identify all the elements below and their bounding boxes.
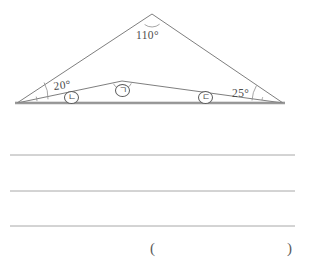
apex-angle-label: 110° — [136, 30, 159, 42]
answer-bracket-close: ) — [287, 241, 292, 256]
marked-angle-giyeok: ㄱ — [115, 84, 130, 97]
marked-angle-nieun: ㄴ — [64, 91, 79, 104]
outer-triangle-right-side — [152, 14, 283, 103]
apex-angle-arc — [145, 24, 160, 27]
outer-triangle-left-side — [17, 14, 152, 103]
right-base-angle-label: 25° — [232, 88, 249, 100]
right-angle-arc-outer — [252, 86, 257, 101]
marked-angle-digeut: ㄷ — [198, 91, 213, 104]
right-angle-arc-inner — [262, 97, 263, 100]
worksheet-page: 110° 20° 25° ㄱ ㄴ ㄷ ( ) — [0, 0, 313, 270]
answer-bracket-open: ( — [150, 241, 155, 256]
